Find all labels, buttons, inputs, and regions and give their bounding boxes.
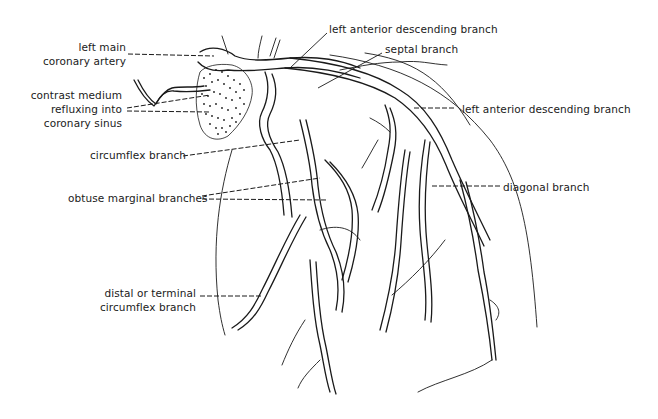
label-lad-top: left anterior descending branch [329,22,498,36]
label-circumflex-branch: circumflex branch [90,148,186,162]
label-lad-right: left anterior descending branch [462,102,631,116]
label-obtuse-marginal-branches: obtuse marginal branches [68,191,208,205]
contrast-stipple [196,64,252,139]
label-contrast-medium: contrast medium refluxing into coronary … [22,88,122,130]
leader-circumflex [183,140,300,156]
label-distal-circumflex: distal or terminal circumflex branch [96,286,196,314]
leader-left-main [128,54,214,56]
label-contrast-line3: coronary sinus [22,116,122,130]
label-septal-branch: septal branch [385,42,458,56]
label-distal-line1: distal or terminal [96,286,196,300]
coronary-diagram: left main coronary artery contrast mediu… [0,0,658,419]
label-distal-line2: circumflex branch [96,300,196,314]
label-left-main-line1: left main [38,40,126,54]
label-left-main-line2: coronary artery [38,54,126,68]
label-contrast-line1: contrast medium [22,88,122,102]
leader-contrast [127,95,210,112]
label-diagonal-branch: diagonal branch [503,180,589,194]
label-contrast-line2: refluxing into [22,102,122,116]
label-left-main: left main coronary artery [38,40,126,68]
